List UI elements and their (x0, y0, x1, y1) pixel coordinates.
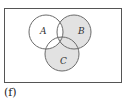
set-b-label: B (77, 26, 85, 36)
set-a-label: A (39, 26, 47, 36)
figure-caption: (f) (4, 86, 17, 99)
venn-diagram: A B C (0, 0, 126, 103)
set-c-label: C (60, 56, 67, 66)
